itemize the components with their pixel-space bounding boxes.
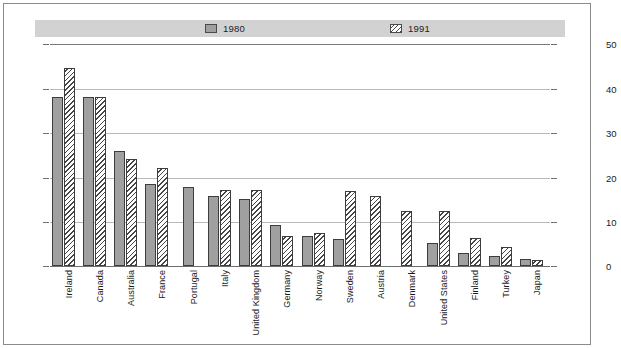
- axis-label-right-10: 10: [606, 218, 621, 228]
- tick-right-50: [551, 44, 557, 45]
- bar-1991: [401, 211, 412, 267]
- category-label: Germany: [283, 270, 292, 308]
- category-label-layer: IrelandCanadaAustraliaFrancePortugalItal…: [50, 270, 550, 348]
- legend-swatch-hatch-icon: [390, 24, 402, 33]
- bar-1980: [458, 253, 469, 266]
- chart-frame: 1980 1991 50 40 30 20 10: [3, 3, 591, 345]
- tick-left-0: [43, 266, 49, 267]
- bar-1980: [270, 225, 281, 266]
- bars-layer: [50, 44, 550, 267]
- bar-1991: [282, 236, 293, 266]
- category-label: Australia: [127, 270, 136, 306]
- axis-label-right-0: 0: [606, 262, 621, 272]
- tick-right-30: [551, 133, 557, 134]
- tick-left-20: [43, 178, 49, 179]
- tick-right-40: [551, 89, 557, 90]
- bar-1991: [470, 238, 481, 266]
- chart-legend: 1980 1991: [35, 20, 565, 37]
- tick-right-10: [551, 222, 557, 223]
- category-label: Ireland: [65, 270, 74, 298]
- bar-1991: [314, 233, 325, 266]
- category-label: Denmark: [408, 270, 417, 307]
- bar-1980: [208, 196, 219, 266]
- category-label: Portugal: [190, 270, 199, 304]
- category-label: United States: [440, 270, 449, 325]
- bar-1991: [64, 68, 75, 266]
- bar-1980: [114, 151, 125, 266]
- legend-label-1980: 1980: [223, 24, 245, 34]
- category-label: Austria: [377, 270, 386, 299]
- category-label: France: [158, 270, 167, 299]
- bar-1980: [183, 187, 194, 266]
- bar-1980: [489, 256, 500, 266]
- bar-1991: [345, 191, 356, 266]
- category-label: Canada: [96, 270, 105, 302]
- bar-1991: [220, 190, 231, 266]
- bar-1980: [145, 184, 156, 266]
- category-label: Turkey: [502, 270, 511, 298]
- category-label: Finland: [471, 270, 480, 300]
- tick-left-10: [43, 222, 49, 223]
- legend-label-1991: 1991: [408, 24, 430, 34]
- category-label: United Kingdom: [252, 270, 261, 335]
- bar-1980: [83, 97, 94, 266]
- bar-1991: [157, 168, 168, 266]
- bar-1991: [501, 247, 512, 266]
- legend-swatch-solid-icon: [205, 24, 217, 33]
- bar-1980: [427, 243, 438, 266]
- tick-right-0: [551, 266, 557, 267]
- legend-item-1991: 1991: [390, 20, 430, 37]
- axis-label-right-50: 50: [606, 40, 621, 50]
- bar-1980: [333, 239, 344, 266]
- plot-area: 50 40 30 20 10 0 50 40 30 20 10 0: [50, 44, 550, 267]
- axis-label-right-20: 20: [606, 174, 621, 184]
- bar-1991: [370, 196, 381, 266]
- bar-1991: [95, 97, 106, 266]
- axis-label-right-40: 40: [606, 85, 621, 95]
- bar-1991: [532, 260, 543, 266]
- bar-1980: [520, 259, 531, 266]
- bar-1991: [126, 159, 137, 266]
- bar-1980: [302, 236, 313, 266]
- category-label: Japan: [533, 270, 542, 295]
- tick-left-30: [43, 133, 49, 134]
- tick-left-40: [43, 89, 49, 90]
- bar-1991: [439, 211, 450, 267]
- tick-left-50: [43, 44, 49, 45]
- bar-1980: [239, 199, 250, 266]
- bar-1991: [251, 190, 262, 266]
- category-label: Norway: [315, 270, 324, 301]
- axis-label-right-30: 30: [606, 129, 621, 139]
- category-label: Sweden: [346, 270, 355, 303]
- category-label: Italy: [221, 270, 230, 287]
- bar-1980: [52, 97, 63, 266]
- tick-right-20: [551, 178, 557, 179]
- legend-item-1980: 1980: [205, 20, 245, 37]
